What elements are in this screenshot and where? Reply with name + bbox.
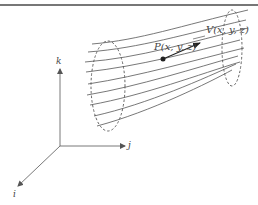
streamline (87, 56, 238, 95)
axis-i-label: i (13, 190, 16, 199)
velocity-label: V(x, y, z) (206, 25, 249, 35)
i-axis (18, 146, 60, 186)
streamline (88, 48, 244, 84)
left-cross-section (91, 41, 125, 131)
label-leader (193, 36, 205, 39)
coordinate-axes (18, 69, 125, 186)
axis-j-label: j (128, 141, 131, 150)
right-cross-section (222, 10, 242, 86)
axis-k-label: k (56, 57, 61, 66)
streamline (94, 64, 236, 116)
point-label: P(x, y, z) (154, 42, 196, 52)
